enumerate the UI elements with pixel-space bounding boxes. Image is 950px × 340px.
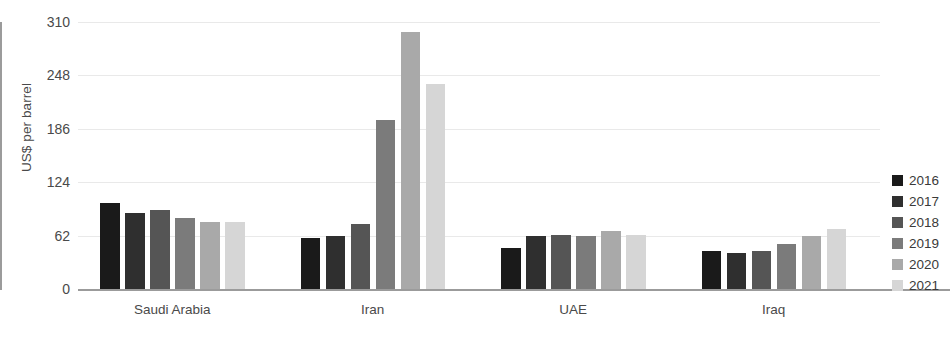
legend-swatch-icon [892,175,903,186]
bar [827,229,847,289]
bar [626,235,646,289]
x-axis-category-label: Iran [293,302,453,317]
legend-label: 2019 [909,237,939,251]
bar [702,251,722,289]
legend-label: 2021 [909,279,939,293]
legend: 201620172018201920202021 [892,170,950,296]
bar [326,236,346,289]
bar [301,238,321,289]
bar [501,248,521,289]
legend-item[interactable]: 2016 [892,170,950,191]
bar [200,222,220,289]
bar [175,218,195,289]
legend-item[interactable]: 2017 [892,191,950,212]
legend-label: 2018 [909,216,939,230]
x-axis-category-labels: Saudi ArabiaIranUAEIraq [78,302,880,326]
y-axis-tick-labels: 062124186248310 [8,0,70,340]
bar-chart: US$ per barrel 062124186248310 Saudi Ara… [0,0,950,340]
legend-item[interactable]: 2018 [892,212,950,233]
y-axis-tick-label: 62 [10,229,70,243]
y-axis-tick-label: 0 [10,282,70,296]
bar [376,120,396,289]
y-axis-line [0,22,2,290]
legend-swatch-icon [892,259,903,270]
bars-layer [78,0,880,340]
bar [526,236,546,289]
bar [601,231,621,289]
bar [551,235,571,289]
bar [100,203,120,289]
legend-label: 2017 [909,195,939,209]
bar [125,213,145,289]
y-axis-tick-label: 124 [10,175,70,189]
bar [777,244,797,289]
bar [225,222,245,289]
bar [576,236,596,289]
bar [401,32,421,289]
bar [802,236,822,289]
x-axis-category-label: Iraq [694,302,854,317]
bar [150,210,170,289]
legend-swatch-icon [892,196,903,207]
bar [752,251,772,289]
y-axis-tick-label: 186 [10,122,70,136]
y-axis-tick-label: 248 [10,68,70,82]
legend-item[interactable]: 2019 [892,233,950,254]
legend-swatch-icon [892,217,903,228]
legend-label: 2020 [909,258,939,272]
bar [426,84,446,289]
legend-swatch-icon [892,238,903,249]
x-axis-category-label: UAE [493,302,653,317]
x-axis-category-label: Saudi Arabia [92,302,252,317]
legend-label: 2016 [909,174,939,188]
legend-swatch-icon [892,280,903,291]
bar [351,224,371,289]
legend-item[interactable]: 2020 [892,254,950,275]
legend-item[interactable]: 2021 [892,275,950,296]
y-axis-tick-label: 310 [10,15,70,29]
bar [727,253,747,289]
